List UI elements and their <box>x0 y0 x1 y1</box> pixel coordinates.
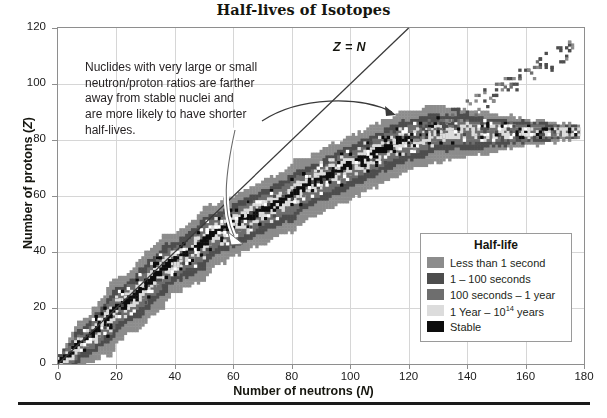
y-tick-mark <box>52 308 57 309</box>
x-axis-title-prefix: Number of neutrons ( <box>233 384 360 398</box>
x-tick-mark <box>58 364 59 369</box>
y-axis-symbol: Z <box>21 121 35 129</box>
x-tick-label: 60 <box>213 370 253 382</box>
x-axis-title-suffix: ) <box>369 384 373 398</box>
x-tick-mark <box>409 364 410 369</box>
x-tick-label: 40 <box>155 370 195 382</box>
legend-swatch-1y1e14y <box>427 305 444 316</box>
x-tick-label: 140 <box>447 370 487 382</box>
y-tick-mark <box>52 252 57 253</box>
y-axis-title-prefix: Number of protons ( <box>21 129 35 249</box>
legend-item-1y1e14y[interactable]: 1 Year – 1014 years <box>427 303 565 318</box>
annotation-line-5: half-lives. <box>85 123 335 139</box>
legend-label-1to100s: 1 – 100 seconds <box>450 273 531 285</box>
x-tick-label: 180 <box>564 370 604 382</box>
legend-item-100s1y[interactable]: 100 seconds – 1 year <box>427 287 565 302</box>
x-tick-label: 80 <box>272 370 312 382</box>
x-tick-mark <box>350 364 351 369</box>
legend-swatch-lt1s <box>427 257 444 268</box>
x-tick-mark <box>233 364 234 369</box>
bottom-divider <box>18 402 590 405</box>
annotation-line-1: Nuclides with very large or small <box>85 60 335 76</box>
x-tick-label: 20 <box>96 370 136 382</box>
legend-swatch-stable <box>427 321 444 332</box>
legend-label-100s1y: 100 seconds – 1 year <box>450 289 555 301</box>
y-tick-mark <box>52 140 57 141</box>
annotation-text: Nuclides with very large or small neutro… <box>85 60 335 139</box>
x-tick-label: 120 <box>389 370 429 382</box>
legend-swatch-100s1y <box>427 289 444 300</box>
x-tick-mark <box>175 364 176 369</box>
x-tick-mark <box>526 364 527 369</box>
page-title: Half-lives of Isotopes <box>0 1 607 18</box>
annotation-line-2: neutron/proton ratios are farther <box>85 76 335 92</box>
x-tick-mark <box>116 364 117 369</box>
x-tick-label: 0 <box>38 370 78 382</box>
legend-item-lt1s[interactable]: Less than 1 second <box>427 255 565 270</box>
annotation-line-4: are more likely to have shorter <box>85 107 335 123</box>
annotation-line-3: away from stable nuclei and <box>85 91 335 107</box>
legend-swatch-1to100s <box>427 273 444 284</box>
y-tick-mark <box>52 28 57 29</box>
legend-title: Half-life <box>427 238 565 252</box>
x-tick-label: 160 <box>506 370 546 382</box>
y-tick-label: 120 <box>12 20 46 32</box>
x-axis-title: Number of neutrons (N) <box>0 384 607 398</box>
x-tick-mark <box>292 364 293 369</box>
reference-line-label: Z = N <box>333 40 366 54</box>
y-tick-mark <box>52 196 57 197</box>
y-tick-label: 0 <box>12 356 46 368</box>
y-tick-label: 100 <box>12 76 46 88</box>
x-tick-label: 100 <box>330 370 370 382</box>
legend-exponent: 14 <box>506 304 514 313</box>
y-axis-title: Number of protons (Z) <box>21 93 35 273</box>
y-axis-title-suffix: ) <box>21 117 35 121</box>
legend-item-1to100s[interactable]: 1 – 100 seconds <box>427 271 565 286</box>
legend-label-1y1e14y: 1 Year – 1014 years <box>450 304 544 318</box>
y-tick-label: 20 <box>12 300 46 312</box>
x-tick-mark <box>584 364 585 369</box>
legend-label-lt1s: Less than 1 second <box>450 257 545 269</box>
legend-item-stable[interactable]: Stable <box>427 319 565 334</box>
x-tick-mark <box>467 364 468 369</box>
y-tick-mark <box>52 84 57 85</box>
legend-items: Less than 1 second1 – 100 seconds100 sec… <box>427 255 565 334</box>
legend-label-stable: Stable <box>450 321 481 333</box>
legend: Half-life Less than 1 second1 – 100 seco… <box>420 233 572 342</box>
y-tick-mark <box>52 364 57 365</box>
